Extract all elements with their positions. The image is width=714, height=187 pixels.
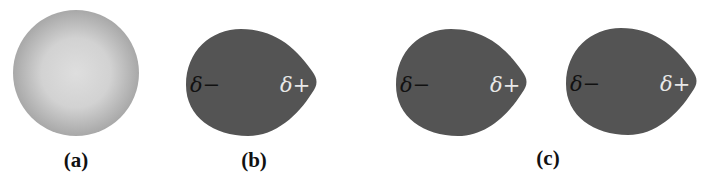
nonpolar-sphere xyxy=(13,10,139,136)
delta-negative-label: δ− xyxy=(190,73,220,97)
delta-positive-label: δ+ xyxy=(660,72,690,96)
figure-svg: (a) δ− δ+ (b) δ− δ+ δ− δ+ (c) xyxy=(0,0,714,187)
polarized-blob-right: δ− δ+ xyxy=(566,28,697,135)
polarized-blob-left: δ− δ+ xyxy=(396,29,527,136)
panel-a: (a) xyxy=(13,10,139,172)
panel-c: δ− δ+ δ− δ+ (c) xyxy=(396,28,697,170)
dipole-figure: (a) δ− δ+ (b) δ− δ+ δ− δ+ (c) xyxy=(0,0,714,187)
panel-c-label: (c) xyxy=(536,146,559,170)
delta-positive-label: δ+ xyxy=(280,73,310,97)
polarized-blob: δ− δ+ xyxy=(186,29,317,136)
delta-positive-label: δ+ xyxy=(490,73,520,97)
delta-negative-label: δ− xyxy=(400,73,430,97)
panel-b: δ− δ+ (b) xyxy=(186,29,317,172)
panel-b-label: (b) xyxy=(241,148,267,172)
panel-a-label: (a) xyxy=(64,148,89,172)
delta-negative-label: δ− xyxy=(570,72,600,96)
